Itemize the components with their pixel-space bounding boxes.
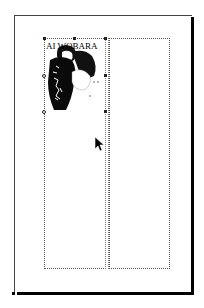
image-caption: AI WOBARA <box>46 41 98 51</box>
resize-handle-bottom-left[interactable] <box>42 110 46 114</box>
resize-handle-top-left[interactable] <box>43 37 46 40</box>
resize-handle-top[interactable] <box>73 37 76 40</box>
resize-handle-right[interactable] <box>104 74 107 77</box>
resize-handle-left[interactable] <box>42 74 46 78</box>
page-shadow-right <box>191 17 194 295</box>
resize-handle-bottom-right[interactable] <box>104 110 107 113</box>
page-shadow-bottom <box>17 292 194 295</box>
resize-handle-top-right[interactable] <box>104 37 107 40</box>
arrow-cursor-icon <box>95 137 105 157</box>
text-column-right[interactable] <box>109 38 170 269</box>
page-corner-marker <box>12 292 15 295</box>
